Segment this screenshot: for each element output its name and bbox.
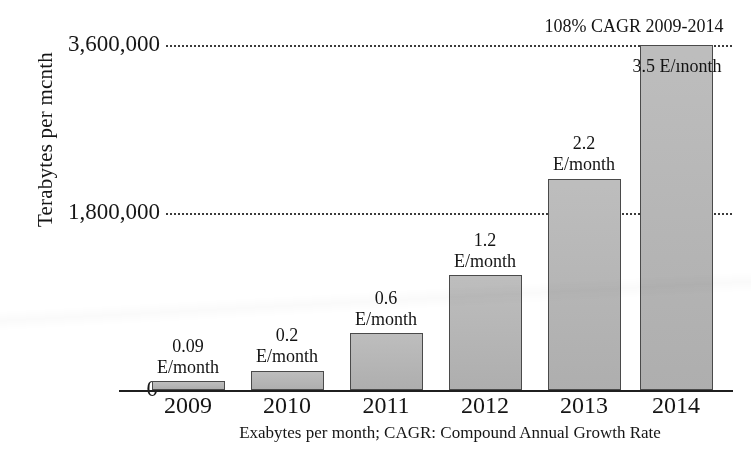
bar-2014[interactable] [640, 45, 713, 390]
bar-2013[interactable] [548, 179, 621, 390]
bar-unit-2010: E/month [227, 346, 347, 367]
bar-chart: Terabytes per mcnth 3,600,000 1,800,000 … [0, 0, 751, 462]
bar-value-2013: 2.2 [524, 133, 644, 154]
bar-label-2013: 2.2 E/month [524, 133, 644, 175]
bar-2009[interactable] [152, 381, 225, 390]
bar-2010[interactable] [251, 371, 324, 390]
bar-unit-2014: E/ınonth [660, 56, 722, 76]
bar-unit-2011: E/month [326, 309, 446, 330]
bar-label-2011: 0.6 E/month [326, 288, 446, 330]
bar-2011[interactable] [350, 333, 423, 390]
bar-label-2012: 1.2 E/month [425, 230, 545, 272]
x-tick-label-2014: 2014 [616, 392, 736, 419]
y-tick-label-1800000: 1,800,000 [0, 199, 160, 225]
bar-unit-2012: E/month [425, 251, 545, 272]
chart-footnote: Exabytes per month; CAGR: Compound Annua… [150, 423, 750, 443]
bar-unit-2013: E/month [524, 154, 644, 175]
bar-label-2010: 0.2 E/month [227, 325, 347, 367]
bar-value-2012: 1.2 [425, 230, 545, 251]
bar-2012[interactable] [449, 275, 522, 390]
bar-value-2011: 0.6 [326, 288, 446, 309]
bar-value-2014: 3.5 [633, 56, 656, 76]
y-tick-label-3600000: 3,600,000 [0, 31, 160, 57]
cagr-annotation: 108% CAGR 2009-2014 [520, 16, 748, 37]
bar-label-2014: 3.5 E/ınonth [617, 56, 737, 77]
